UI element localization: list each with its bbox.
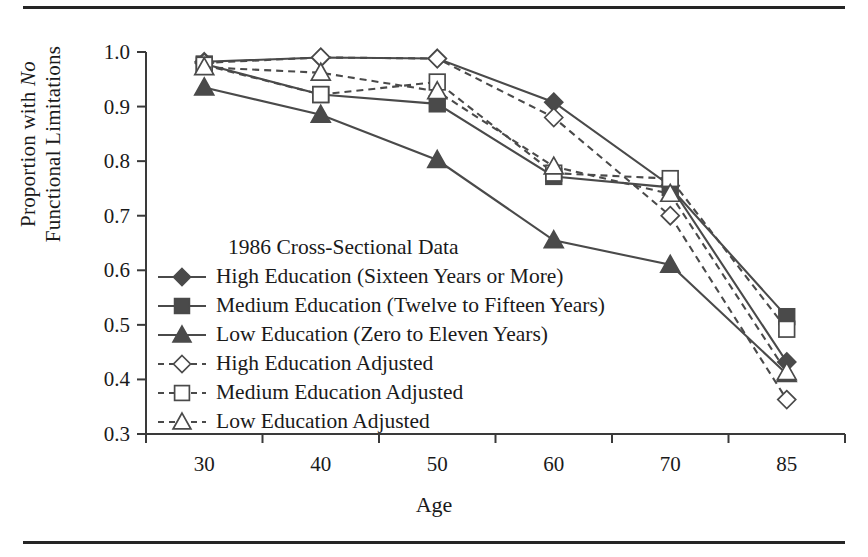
y-tick-label: 0.9	[104, 95, 130, 119]
x-tick-label: 40	[310, 452, 331, 476]
legend-label: High Education Adjusted	[216, 351, 434, 375]
filled-triangle-marker	[428, 151, 447, 168]
filled-square-marker	[175, 299, 190, 314]
y-tick-label: 0.8	[104, 149, 130, 173]
x-tick-label: 70	[660, 452, 681, 476]
y-tick-label: 0.4	[104, 367, 131, 391]
open-square-marker	[313, 87, 329, 103]
legend-label: High Education (Sixteen Years or More)	[216, 264, 564, 288]
x-tick-label: 60	[543, 452, 564, 476]
x-tick-label: 50	[427, 452, 448, 476]
series-line	[204, 65, 787, 329]
legend-label: Low Education (Zero to Eleven Years)	[216, 322, 548, 346]
y-tick-label: 0.6	[104, 258, 130, 282]
legend-label: Medium Education Adjusted	[216, 380, 463, 404]
legend-item-3[interactable]: High Education Adjusted	[158, 351, 434, 375]
open-triangle-marker	[173, 413, 191, 429]
y-tick-label: 1.0	[104, 40, 130, 64]
x-tick-label: 30	[194, 452, 215, 476]
filled-triangle-marker	[195, 78, 214, 95]
y-tick-label: 0.3	[104, 422, 130, 446]
legend-label: Low Education Adjusted	[216, 409, 430, 433]
open-square-marker	[779, 321, 795, 337]
filled-diamond-marker	[174, 269, 191, 286]
y-tick-label: 0.5	[104, 313, 130, 337]
y-axis-tick-group: 1.00.90.80.70.60.50.40.3	[104, 40, 146, 446]
legend-item-2[interactable]: Low Education (Zero to Eleven Years)	[158, 322, 548, 346]
legend-item-1[interactable]: Medium Education (Twelve to Fifteen Year…	[158, 293, 605, 317]
x-axis-tick-group: 304050607085	[146, 434, 845, 476]
open-diamond-marker	[778, 391, 796, 409]
open-diamond-marker	[428, 50, 446, 68]
bottom-horizontal-rule	[23, 541, 845, 544]
plot-area: 1.00.90.80.70.60.50.40.3 304050607085 19…	[0, 14, 868, 484]
legend-item-4[interactable]: Medium Education Adjusted	[158, 380, 463, 404]
legend: 1986 Cross-Sectional DataHigh Education …	[158, 235, 605, 433]
filled-triangle-marker	[544, 231, 563, 248]
chart-figure: Proportion with No Functional Limitation…	[0, 14, 868, 534]
x-axis-title: Age	[0, 492, 868, 518]
legend-item-0[interactable]: High Education (Sixteen Years or More)	[158, 264, 564, 288]
y-tick-label: 0.7	[104, 204, 130, 228]
legend-item-5[interactable]: Low Education Adjusted	[158, 409, 430, 433]
legend-title: 1986 Cross-Sectional Data	[228, 235, 459, 259]
x-tick-label: 85	[776, 452, 797, 476]
legend-label: Medium Education (Twelve to Fifteen Year…	[216, 293, 605, 317]
open-diamond-marker	[174, 356, 191, 373]
top-horizontal-rule	[23, 6, 845, 9]
open-square-marker	[175, 386, 190, 401]
